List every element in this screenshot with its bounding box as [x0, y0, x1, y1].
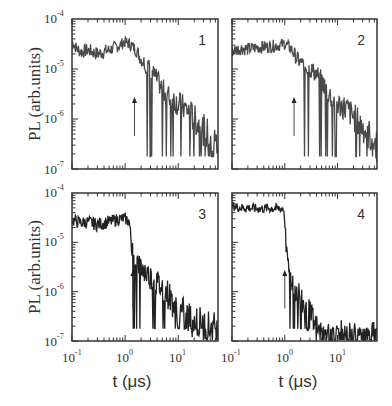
x-axis-title-left: t (μs) — [112, 372, 151, 391]
panel-4: 4 — [232, 193, 377, 341]
svg-text:100: 100 — [116, 348, 133, 365]
svg-text:10-6: 10-6 — [44, 282, 64, 299]
y-tick-labels-bottom: 10-4 10-5 10-6 10-7 — [44, 183, 64, 349]
svg-text:101: 101 — [329, 348, 346, 365]
y-axis-title-bottom: PL (arb.units) — [25, 220, 44, 314]
panel-label: 1 — [198, 32, 206, 48]
x-tick-labels-left: 10-1 100 101 — [62, 348, 186, 365]
panel-3: 3 — [72, 193, 218, 341]
panel-2: 2 — [232, 19, 377, 169]
svg-text:10-4: 10-4 — [44, 183, 64, 200]
pl-trace — [72, 36, 218, 156]
figure: PL (arb.units) PL (arb.units) 10-4 10-5 … — [0, 0, 392, 406]
excitation-arrow-icon — [132, 97, 137, 136]
excitation-arrow-icon — [292, 97, 297, 136]
x-tick-labels-right: 10-1 100 101 — [221, 348, 346, 365]
pl-trace — [232, 39, 377, 162]
y-axis-title-top: PL (arb.units) — [25, 47, 44, 141]
svg-text:10-5: 10-5 — [44, 232, 64, 249]
panel-label: 2 — [357, 32, 365, 48]
panel-label: 3 — [198, 206, 206, 222]
svg-text:10-7: 10-7 — [44, 160, 64, 177]
svg-text:10-7: 10-7 — [44, 332, 64, 349]
svg-text:10-1: 10-1 — [221, 348, 241, 365]
excitation-arrow-icon — [282, 270, 287, 308]
svg-text:100: 100 — [276, 348, 293, 365]
panel-1: 1 — [72, 19, 218, 169]
plot-frame — [72, 19, 218, 169]
svg-text:10-6: 10-6 — [44, 109, 64, 126]
x-axis-title-right: t (μs) — [278, 372, 317, 391]
pl-trace — [232, 202, 377, 340]
panels: 1234 — [72, 19, 377, 341]
svg-text:10-4: 10-4 — [44, 9, 64, 26]
pl-trace — [72, 213, 218, 340]
panel-label: 4 — [357, 206, 365, 222]
svg-text:10-5: 10-5 — [44, 59, 64, 76]
svg-text:10-1: 10-1 — [62, 348, 82, 365]
y-tick-labels-top: 10-4 10-5 10-6 10-7 — [44, 9, 64, 177]
svg-text:101: 101 — [169, 348, 186, 365]
